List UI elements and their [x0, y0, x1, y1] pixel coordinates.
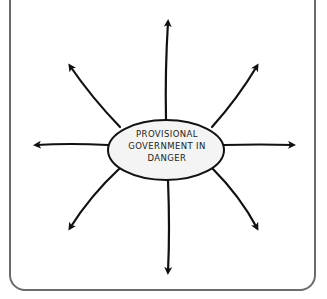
arrow-right	[224, 145, 293, 146]
center-label-line-2: GOVERNMENT IN	[108, 140, 226, 152]
center-label-line-3: DANGER	[108, 152, 226, 164]
arrow-up-left	[70, 66, 120, 127]
arrow-down-right	[212, 168, 257, 228]
arrow-down	[168, 180, 169, 272]
center-label-line-1: PROVISIONAL	[108, 128, 226, 140]
arrow-up-right	[212, 66, 257, 127]
arrow-left	[36, 144, 108, 145]
arrow-up	[166, 22, 168, 120]
center-label: PROVISIONAL GOVERNMENT IN DANGER	[108, 128, 226, 164]
arrow-down-left	[70, 168, 120, 228]
